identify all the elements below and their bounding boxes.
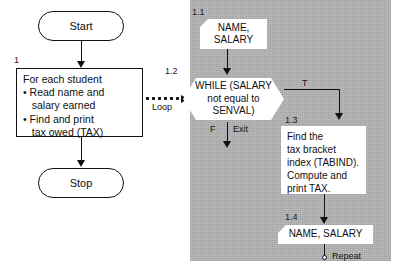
while-line-2: not equal to xyxy=(207,93,259,106)
connector-process-to-stop xyxy=(81,137,82,162)
process-box-text: For each student • Read name and salary … xyxy=(17,69,142,142)
connector-while-true-horizontal xyxy=(284,89,339,90)
stop-terminator: Stop xyxy=(38,168,124,198)
connector-while-true-vertical xyxy=(339,89,340,116)
while-line-1: WHILE (SALARY xyxy=(195,80,272,93)
branch-label-true: T xyxy=(302,78,308,89)
start-label: Start xyxy=(69,20,92,32)
arrowhead-while-true xyxy=(335,113,343,120)
tax-line-1: Find the xyxy=(287,130,361,143)
io-input-line-2: SALARY xyxy=(214,34,253,47)
tax-line-2: tax bracket xyxy=(287,143,361,156)
process-box-for-each-student: For each student • Read name and salary … xyxy=(16,68,143,137)
io-input-line-1: NAME, xyxy=(218,22,250,35)
while-line-3: SENVAL) xyxy=(212,105,254,118)
dotted-loop-connector xyxy=(146,97,182,100)
step-number-1-4: 1.4 xyxy=(285,212,298,223)
decision-shape-while-loop: WHILE (SALARY not equal to SENVAL) xyxy=(183,78,284,120)
process-box-find-tax-bracket: Find the tax bracket index (TABIND). Com… xyxy=(281,126,366,194)
step-number-1-3: 1.3 xyxy=(285,115,298,126)
loop-label: Loop xyxy=(152,102,172,113)
process-line-3: salary earned xyxy=(23,99,137,112)
arrowhead-input-to-while xyxy=(223,68,231,75)
connector-start-to-process xyxy=(81,41,82,63)
step-number-1-2: 1.2 xyxy=(165,66,178,77)
repeat-label: Repeat xyxy=(332,251,361,262)
repeat-connector-circle xyxy=(322,255,327,260)
process-line-4: • Find and print xyxy=(23,113,137,126)
arrowhead-while-false xyxy=(223,141,231,148)
io-shape-name-salary-input: NAME, SALARY xyxy=(200,19,267,49)
step-number-1: 1 xyxy=(14,55,19,66)
connector-tax-to-output xyxy=(324,194,325,219)
arrowhead-process-to-stop xyxy=(77,160,85,167)
process-line-2: • Read name and xyxy=(23,86,137,99)
io-shape-name-salary-output: NAME, SALARY xyxy=(278,225,373,244)
start-terminator: Start xyxy=(38,11,124,41)
branch-label-exit: Exit xyxy=(233,124,248,135)
flowchart-canvas: Start 1 For each student • Read name and… xyxy=(0,0,403,276)
arrowhead-start-to-process xyxy=(77,61,85,68)
io-output-text: NAME, SALARY xyxy=(289,228,363,241)
stop-label: Stop xyxy=(70,177,93,189)
branch-label-false: F xyxy=(210,124,216,135)
arrowhead-tax-to-output xyxy=(320,217,328,224)
tax-line-4: Compute and xyxy=(287,169,361,182)
process-line-1: For each student xyxy=(23,73,137,86)
step-number-1-1: 1.1 xyxy=(192,7,205,18)
tax-line-3: index (TABIND). xyxy=(287,156,361,169)
